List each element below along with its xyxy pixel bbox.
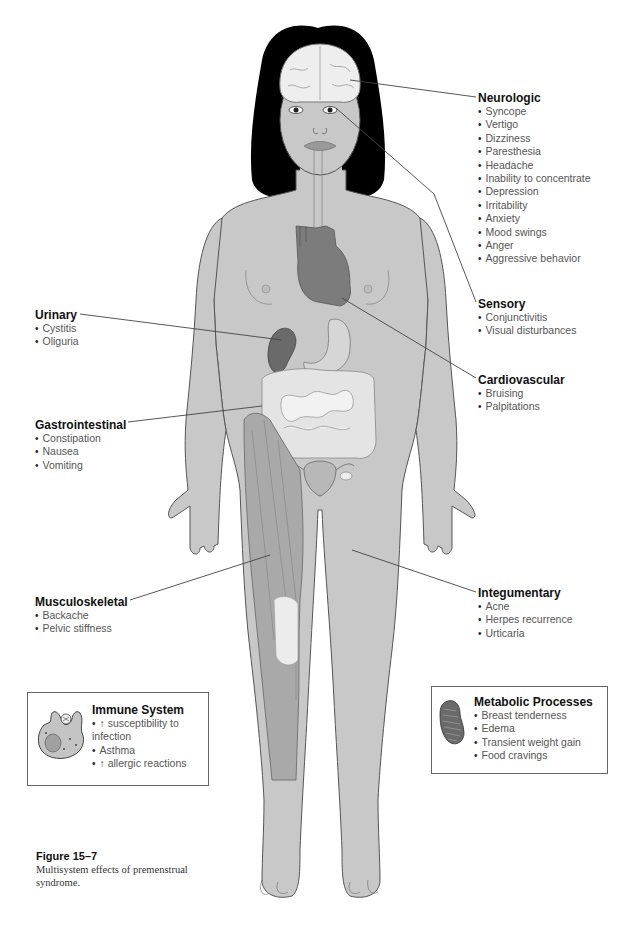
box-title: Metabolic Processes — [474, 695, 593, 709]
group-title: Neurologic — [478, 91, 591, 105]
group-title: Integumentary — [478, 586, 572, 600]
list-item: Backache — [35, 609, 128, 622]
group-musculoskeletal: Musculoskeletal Backache Pelvic stiffnes… — [35, 595, 128, 636]
list-item: Conjunctivitis — [478, 311, 576, 324]
figure-caption-text: Multisystem effects of premenstrual synd… — [36, 863, 196, 889]
list-item: ↑ susceptibility to infection — [92, 717, 200, 744]
list-item: Paresthesia — [478, 145, 591, 158]
metabolic-processes-box: Metabolic Processes Breast tenderness Ed… — [431, 686, 608, 774]
group-title: Urinary — [35, 308, 79, 322]
list-item: Herpes recurrence — [478, 613, 572, 626]
box-title: Immune System — [92, 703, 200, 717]
list-item: Acne — [478, 600, 572, 613]
list-item: Oliguria — [35, 335, 79, 348]
macrophage-cell-icon — [34, 705, 88, 763]
list-item: Dizziness — [478, 132, 591, 145]
list-item: Breast tenderness — [474, 709, 593, 722]
list-item: Visual disturbances — [478, 324, 576, 337]
list-item: Syncope — [478, 105, 591, 118]
group-gastrointestinal: Gastrointestinal Constipation Nausea Vom… — [35, 418, 126, 472]
group-sensory: Sensory Conjunctivitis Visual disturbanc… — [478, 297, 576, 338]
list-item: Edema — [474, 722, 593, 735]
group-cardiovascular: Cardiovascular Bruising Palpitations — [478, 373, 565, 414]
list-item: Anger — [478, 239, 591, 252]
list-item: Constipation — [35, 432, 126, 445]
list-item: Aggressive behavior — [478, 252, 591, 265]
group-urinary: Urinary Cystitis Oliguria — [35, 308, 79, 349]
figure-caption: Figure 15–7 Multisystem effects of preme… — [36, 850, 196, 889]
group-title: Musculoskeletal — [35, 595, 128, 609]
group-title: Cardiovascular — [478, 373, 565, 387]
mitochondrion-icon — [438, 697, 466, 747]
list-item: Transient weight gain — [474, 736, 593, 749]
immune-system-box: Immune System ↑ susceptibility to infect… — [27, 692, 209, 786]
group-title: Sensory — [478, 297, 576, 311]
figure-number: Figure 15–7 — [36, 850, 196, 863]
left-arm — [169, 218, 226, 554]
list-item: Vertigo — [478, 118, 591, 131]
group-title: Gastrointestinal — [35, 418, 126, 432]
list-item: Asthma — [92, 744, 200, 757]
list-item: Bruising — [478, 387, 565, 400]
list-item: Food cravings — [474, 749, 593, 762]
group-integumentary: Integumentary Acne Herpes recurrence Urt… — [478, 586, 572, 640]
list-item: Cystitis — [35, 322, 79, 335]
list-item: Palpitations — [478, 400, 565, 413]
list-item: Anxiety — [478, 212, 591, 225]
right-arm — [416, 218, 475, 554]
knee-tendon — [274, 597, 298, 665]
list-item: Urticaria — [478, 627, 572, 640]
list-item: Depression — [478, 185, 591, 198]
list-item: Inability to concentrate — [478, 172, 591, 185]
list-item: Irritability — [478, 199, 591, 212]
list-item: Nausea — [35, 445, 126, 458]
list-item: Vomiting — [35, 459, 126, 472]
list-item: Pelvic stiffness — [35, 622, 128, 635]
list-item: Headache — [478, 159, 591, 172]
list-item: Mood swings — [478, 226, 591, 239]
group-neurologic: Neurologic Syncope Vertigo Dizziness Par… — [478, 91, 591, 266]
list-item: ↑ allergic reactions — [92, 757, 200, 770]
